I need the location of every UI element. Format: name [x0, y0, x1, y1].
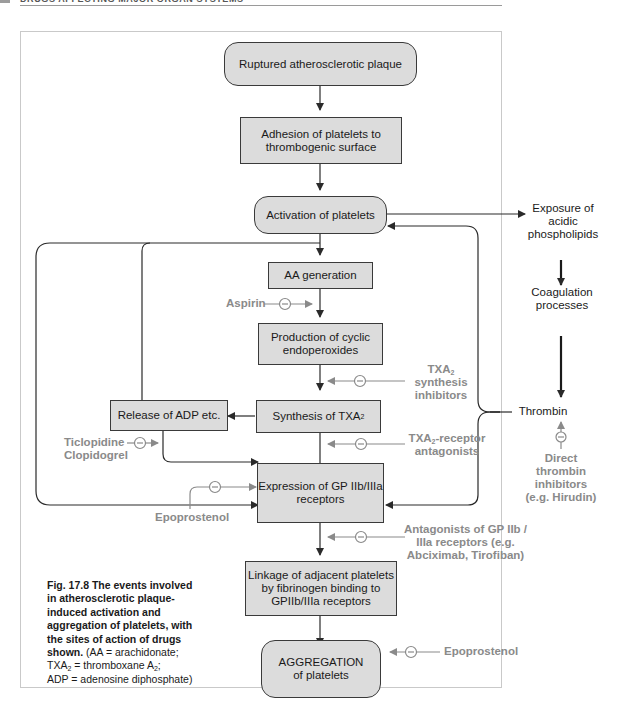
- inhibit-epoprostenol-gp-line: [190, 487, 256, 509]
- drug-label: Ticlopidine: [64, 436, 125, 448]
- aggregation-sublabel: of platelets: [293, 669, 349, 682]
- node-aggregation: AGGREGATION of platelets: [261, 640, 381, 698]
- arrow-thrombin-gp: [386, 412, 500, 505]
- caption-text: ;: [158, 659, 161, 671]
- node-release-adp: Release of ADP etc.: [110, 400, 228, 431]
- node-adhesion: Adhesion of platelets to thrombogenic su…: [240, 117, 402, 164]
- drug-label: Clopidogrel: [64, 449, 128, 461]
- caption-text: (AA = arachidonate;: [83, 646, 178, 658]
- aggregation-label: AGGREGATION: [279, 656, 364, 669]
- caption-text: = thromboxane A: [71, 659, 154, 671]
- node-linkage: Linkage of adjacent platelets by fibrino…: [245, 561, 397, 616]
- drug-label: synthesis inhibitors: [414, 376, 467, 401]
- node-thrombin: Thrombin: [513, 405, 573, 418]
- node-synthesis-txa2: Synthesis of TXA2: [256, 400, 381, 433]
- node-aa-generation: AA generation: [268, 262, 373, 289]
- drug-direct-thrombin-inhibitors: Direct thrombin inhibitors (e.g. Hirudin…: [522, 452, 600, 504]
- node-cyclic-endoperoxides: Production of cyclic endoperoxides: [258, 323, 383, 365]
- node-expression-gp: Expression of GP IIb/IIIa receptors: [257, 463, 384, 523]
- figure-caption: Fig. 17.8 The events involved in atheros…: [47, 579, 197, 686]
- drug-txa2-receptor-antagonists: TXA2-receptor antagonists: [403, 432, 491, 458]
- drug-epoprostenol-aggregation: Epoprostenol: [444, 645, 518, 658]
- synthesis-txa2-label: Synthesis of TXA: [273, 410, 361, 423]
- drug-label: TXA: [409, 432, 432, 444]
- caption-text: ADP = adenosine diphosphate): [47, 673, 192, 685]
- subscript: 2: [451, 369, 455, 376]
- drug-ticlopidine-clopidogrel: Ticlopidine Clopidogrel: [64, 436, 124, 462]
- node-coagulation: Coagulation processes: [527, 286, 597, 312]
- node-exposure-phospholipids: Exposure of acidic phospholipids: [527, 202, 599, 241]
- arrow-adp-gp: [163, 430, 258, 462]
- caption-text: TXA: [47, 659, 67, 671]
- arrow-activation-adp: [142, 243, 150, 425]
- node-ruptured-plaque: Ruptured atherosclerotic plaque: [224, 42, 417, 86]
- drug-label: TXA: [428, 363, 451, 375]
- drug-gp-antagonists: Antagonists of GP IIb / IIIa receptors (…: [403, 523, 528, 562]
- drug-aspirin: Aspirin: [226, 297, 266, 310]
- drug-epoprostenol-gp: Epoprostenol: [155, 511, 229, 524]
- drug-txa2-synthesis-inhibitors: TXA2 synthesis inhibitors: [407, 363, 475, 402]
- node-activation: Activation of platelets: [254, 196, 387, 234]
